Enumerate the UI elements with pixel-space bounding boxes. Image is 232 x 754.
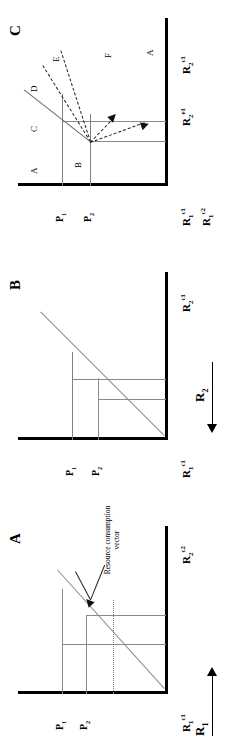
panel-c-x-tick-r2c1: R2c1 — [180, 56, 195, 74]
figure-canvas: A P1 P2 Resource consumption vector R1c1… — [0, 0, 232, 754]
panel-b-x-axis-tick-label: R2c1 — [180, 294, 195, 312]
arrow-right-icon-r1 — [207, 667, 217, 676]
panel-a-x-tick-sup: c2 — [179, 546, 187, 553]
panel-a-label-p1-text: P1 — [54, 721, 65, 730]
panel-c-y-tick-r1c1-sup: c1 — [179, 208, 187, 215]
panel-c-y-tick-r1c2-sub: 1 — [207, 215, 215, 219]
panel-b: B P1 P2 R1c1 R2c1 — [0, 260, 232, 498]
panel-c-letter: C — [8, 25, 23, 36]
panel-c-x-axis — [165, 18, 168, 186]
panel-a-consumption-vector — [57, 569, 165, 689]
panel-c-x-tick-r2e1-sub: 2 — [187, 115, 195, 119]
panel-c-label-p1: P1 — [55, 213, 67, 222]
panel-a-label-p2-text: P2 — [78, 721, 89, 730]
panel-a-guide-r1c1 — [113, 600, 114, 694]
panel-a-letter: A — [8, 533, 23, 544]
panel-a-y-tick-base: R — [180, 724, 192, 732]
panel-a-x-tick-base: R — [180, 556, 192, 564]
panel-a-annotation: Resource consumption vector — [104, 496, 121, 584]
panel-a-callout-leader-1 — [75, 571, 91, 600]
arrow-left-icon-r2 — [207, 424, 217, 433]
global-r2-axis-line — [212, 362, 213, 424]
panel-c-y-tick-r1c2-base: R — [200, 218, 212, 226]
panel-a-y-axis — [18, 691, 168, 694]
panel-c-guide-r1c1 — [90, 114, 91, 186]
panel-b-x-tick-sup: c1 — [179, 294, 187, 301]
panel-b-y-axis — [18, 437, 168, 440]
panel-b-y-tick-base: R — [180, 470, 192, 478]
panel-c-y-tick-r1c1-sub: 1 — [187, 215, 195, 219]
panel-b-letter: B — [8, 280, 23, 290]
panel-c-y-tick-r1c1: R1c1 — [180, 208, 195, 226]
panel-b-label-p2-text: P2 — [90, 467, 101, 476]
panel-b-isocline-p2-horizontal — [98, 378, 99, 440]
panel-c-region-f: F — [104, 53, 113, 58]
panel-c-isocline-p2-vertical — [90, 141, 166, 142]
global-r1-label-base: R1 — [192, 723, 207, 736]
panel-c-x-tick-r2e1-base: R — [180, 118, 192, 126]
panel-b-label-p1-text: P1 — [64, 467, 75, 476]
panel-b-y-tick-sup: c1 — [179, 460, 187, 467]
global-r2-axis-label: R2 — [192, 389, 210, 402]
panel-c-x-tick-r2c1-base: R — [180, 66, 192, 74]
panel-b-x-tick-sub: 2 — [187, 301, 195, 305]
panel-b-x-tick-base: R — [180, 304, 192, 312]
panel-b-label-p2: P2 — [91, 467, 103, 476]
panel-c-y-tick-r1c1-base: R — [180, 218, 192, 226]
global-r1-axis-line — [212, 674, 213, 736]
panel-c-region-c: C — [30, 126, 39, 132]
panel-b-isocline-p1-vertical — [72, 379, 166, 380]
panel-c-label-p2-text: P2 — [82, 213, 93, 222]
panel-a-y-tick-sup: c1 — [179, 714, 187, 721]
panel-a-isocline-p1-vertical — [62, 644, 166, 645]
panel-c-vector-d — [60, 50, 91, 142]
panel-c-region-a-lower: A — [146, 50, 155, 57]
panel-c-region-e: E — [52, 57, 61, 63]
panel-c-label-p2: P2 — [83, 213, 95, 222]
panel-b-y-axis-tick-label: R1c1 — [180, 460, 195, 478]
panel-c-label-p1-text: P1 — [54, 213, 65, 222]
panel-c-region-a-upper: A — [30, 168, 39, 175]
panel-c-y-axis — [18, 183, 168, 186]
panel-c-x-tick-r2e1: R2e1 — [180, 108, 195, 126]
panel-a-x-axis — [165, 526, 168, 694]
panel-c-x-tick-r2c1-sup: c1 — [179, 56, 187, 63]
panel-b-consumption-vector — [40, 312, 164, 436]
panel-c-guide-r1c2 — [62, 94, 63, 186]
panel-c-x-tick-r2e1-sup: e1 — [179, 108, 187, 115]
panel-a-annotation-line2: vector — [113, 496, 122, 584]
panel-c-region-b: B — [74, 162, 83, 168]
global-r1-axis-label: R1 — [192, 723, 210, 736]
global-r2-label-base: R2 — [192, 389, 207, 402]
panel-b-x-axis — [165, 272, 168, 440]
panel-a-x-axis-tick-label: R2c2 — [180, 546, 195, 564]
panel-a-isocline-p2-horizontal — [86, 616, 87, 694]
panel-a-isocline-p1-horizontal — [62, 589, 63, 694]
panel-a-label-p2: P2 — [79, 721, 91, 730]
panel-b-isocline-p2-vertical — [98, 399, 166, 400]
panel-c-region-d: D — [30, 86, 39, 93]
panel-c: C P1 P2 A B C D E F A R1c1 R1c2 R2e1 R2c… — [0, 6, 232, 244]
panel-c-y-tick-r1c2: R1c2 — [200, 208, 215, 226]
panel-c-y-tick-r1c2-sup: c2 — [199, 208, 207, 215]
panel-b-label-p1: P1 — [65, 467, 77, 476]
panel-b-guide-r1c1 — [72, 352, 73, 440]
panel-c-vector-c — [42, 65, 91, 142]
panel-a-label-p1: P1 — [55, 721, 67, 730]
panel-a-x-tick-sub: 2 — [187, 553, 195, 557]
panel-c-x-tick-r2c1-sub: 2 — [187, 63, 195, 67]
panel-a: A P1 P2 Resource consumption vector R1c1… — [0, 514, 232, 752]
panel-b-y-tick-sub: 1 — [187, 467, 195, 471]
